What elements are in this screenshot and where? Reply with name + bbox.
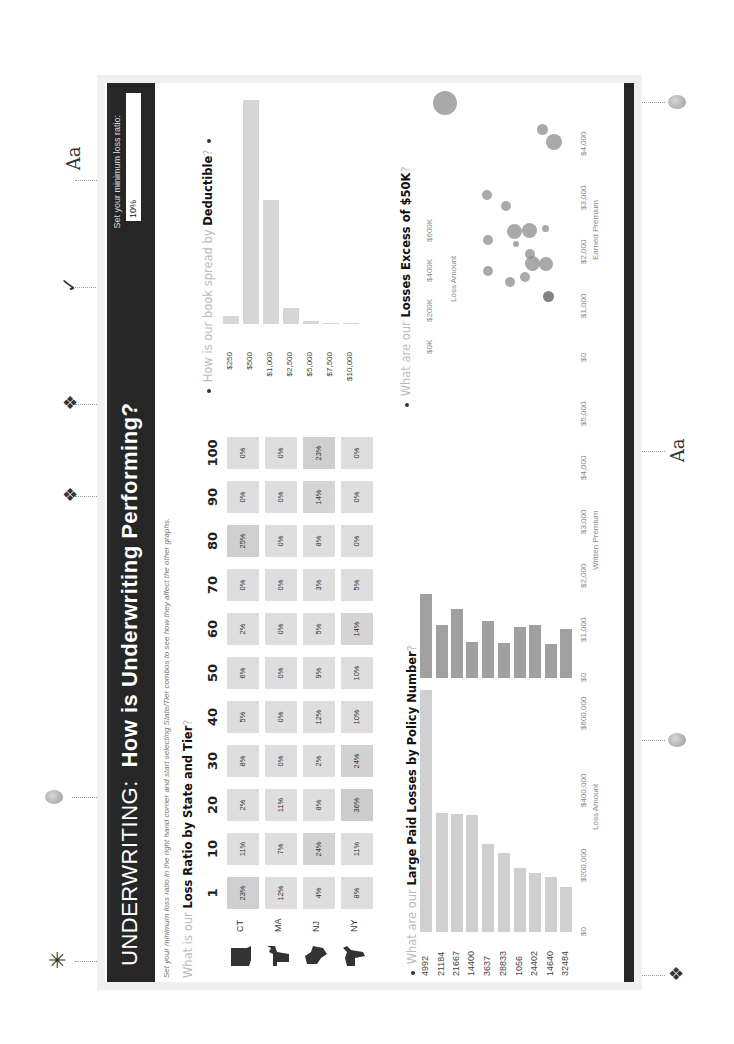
anchor-dot [411,971,415,975]
written-premium-bar[interactable] [529,625,541,678]
heatmap-cell[interactable]: 7% [265,833,297,865]
nj-state-icon[interactable] [303,944,329,968]
scatter-point[interactable] [482,190,492,200]
written-premium-bar[interactable] [560,629,572,678]
heatmap-cell[interactable]: 5% [341,569,373,601]
scatter-point[interactable] [537,124,548,135]
deductible-bar[interactable] [343,323,359,324]
heatmap-cell[interactable]: 0% [227,437,259,469]
written-premium-bar[interactable] [420,594,432,678]
ny-state-icon[interactable] [341,944,367,968]
heatmap-cell[interactable]: 8% [341,877,373,909]
deductible-bar[interactable] [283,308,299,324]
asterisk-annotation-icon: ✳ [48,948,66,973]
heatmap-cell[interactable]: 0% [265,525,297,557]
written-premium-bar[interactable] [451,609,463,678]
loss-amount-bar[interactable] [451,814,463,932]
heatmap-cell[interactable]: 24% [303,833,335,865]
heatmap-cell[interactable]: 11% [341,833,373,865]
heatmap-cell[interactable]: 0% [227,481,259,513]
written-premium-bar[interactable] [436,625,448,678]
deductible-bar[interactable] [263,200,279,324]
deductible-bar[interactable] [323,323,339,324]
loss-amount-bar[interactable] [560,887,572,932]
heatmap-cell[interactable]: 11% [265,789,297,821]
deductible-bar[interactable] [303,321,319,324]
ma-state-icon[interactable] [265,944,291,968]
heatmap-cell[interactable]: 12% [303,701,335,733]
min-loss-ratio-input[interactable]: 10% [126,93,141,221]
heatmap-cell[interactable]: 0% [265,745,297,777]
scatter-point[interactable] [513,241,519,247]
heatmap-cell[interactable]: 23% [303,437,335,469]
written-premium-bar[interactable] [482,621,494,678]
scatter-point[interactable] [433,91,457,115]
wp-axis-tick: $3,000 [579,510,588,534]
loss-amount-bar[interactable] [529,873,541,932]
heatmap-cell[interactable]: 5% [303,613,335,645]
scatter-point[interactable] [522,223,537,238]
heatmap-cell[interactable]: 14% [303,481,335,513]
scatter-point[interactable] [483,266,493,276]
heatmap-cell[interactable]: 8% [303,525,335,557]
heatmap-cell[interactable]: 10% [341,701,373,733]
ct-state-icon[interactable] [227,944,253,968]
scatter-point[interactable] [483,235,493,245]
heatmap-cell[interactable]: 24% [341,745,373,777]
heatmap-cell[interactable]: 8% [227,745,259,777]
heatmap-cell[interactable]: 0% [265,437,297,469]
heatmap-cell[interactable]: 3% [303,569,335,601]
heatmap-cell[interactable]: 0% [341,525,373,557]
heatmap-cell[interactable]: 2% [227,789,259,821]
heatmap-cell[interactable]: 5% [227,701,259,733]
written-premium-bar[interactable] [545,644,557,678]
loss-amount-bar[interactable] [420,690,432,932]
scatter-point[interactable] [507,224,522,239]
heatmap-cell[interactable]: 2% [227,613,259,645]
large-losses-title: What are our Large Paid Losses by Policy… [405,645,419,978]
tier-header: 80 [205,520,220,562]
heatmap-cell[interactable]: 11% [227,833,259,865]
loss-amount-bar[interactable] [466,815,478,932]
loss-axis-tick: $200,000 [579,849,588,882]
written-premium-bar[interactable] [466,642,478,678]
heatmap-cell[interactable]: 6% [227,657,259,689]
loss-amount-bar[interactable] [498,853,510,932]
deductible-bar[interactable] [223,316,239,324]
heatmap-cell[interactable]: 23% [227,877,259,909]
heatmap-cell[interactable]: 0% [265,569,297,601]
heatmap-cell[interactable]: 0% [265,613,297,645]
heatmap-cell[interactable]: 9% [303,657,335,689]
heatmap-cell[interactable]: 0% [341,481,373,513]
loss-amount-bar[interactable] [514,868,526,932]
policy-label: 1056 [514,956,524,976]
tier-header: 90 [205,476,220,518]
heatmap-cell[interactable]: 0% [341,437,373,469]
deductible-bar[interactable] [243,100,259,324]
scatter-point[interactable] [520,272,530,282]
loss-amount-bar[interactable] [482,844,494,932]
heatmap-cell[interactable]: 12% [265,877,297,909]
loss-amount-bar[interactable] [436,813,448,932]
scatter-point[interactable] [542,225,549,232]
scatter-point[interactable] [546,134,562,150]
heatmap-cell[interactable]: 25% [227,525,259,557]
heatmap-cell[interactable]: 2% [303,745,335,777]
written-premium-bar[interactable] [514,627,526,678]
heatmap-cell[interactable]: 0% [227,569,259,601]
written-premium-bar[interactable] [498,643,510,678]
heatmap-cell[interactable]: 8% [303,789,335,821]
loss-amount-bar[interactable] [545,877,557,932]
scatter-point[interactable] [539,257,553,271]
heatmap-cell[interactable]: 36% [341,789,373,821]
scatter-point[interactable] [505,277,515,287]
heatmap-cell[interactable]: 14% [341,613,373,645]
heatmap-cell[interactable]: 0% [265,701,297,733]
heatmap-cell[interactable]: 4% [303,877,335,909]
heatmap-cell[interactable]: 0% [265,657,297,689]
heatmap-cell[interactable]: 10% [341,657,373,689]
heatmap-cell[interactable]: 0% [265,481,297,513]
scatter-point[interactable] [543,291,554,302]
scatter-point[interactable] [525,256,540,271]
scatter-point[interactable] [501,201,511,211]
